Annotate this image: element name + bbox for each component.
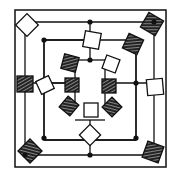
node-left-mid-hatched-square bbox=[17, 76, 33, 92]
node-ring-top-right-hatch-hatched-square bbox=[122, 33, 143, 54]
node-top-mid-white-square bbox=[83, 31, 102, 50]
node-bottom-right-corner-hatched-square bbox=[142, 141, 164, 163]
node-top-right-corner-hatched-square bbox=[140, 12, 163, 35]
concentric-node-diagram bbox=[0, 0, 179, 178]
diagram-nodes bbox=[16, 12, 164, 163]
junction-dot bbox=[133, 135, 138, 140]
node-right-mid-white-square bbox=[146, 78, 163, 95]
junction-dot bbox=[87, 19, 92, 24]
node-bottom-mid-white-square bbox=[79, 124, 100, 145]
node-bottom-left-corner-hatched-square bbox=[18, 139, 42, 163]
node-inner-bottom-left-hatched-square bbox=[59, 96, 79, 116]
junction-dot bbox=[87, 152, 92, 157]
junction-dot bbox=[41, 135, 46, 140]
node-top-left-corner-white-square bbox=[16, 14, 39, 37]
node-inner-bottom-center-white-square bbox=[84, 103, 98, 117]
node-inner-right-hatched-square bbox=[102, 79, 116, 93]
junction-dot bbox=[133, 80, 138, 85]
node-inner-top-left-hatched-square bbox=[61, 54, 79, 72]
junction-dot bbox=[41, 37, 46, 42]
node-inner-left-hatched-square bbox=[65, 78, 79, 92]
junction-dot bbox=[22, 152, 27, 157]
junction-dot bbox=[151, 19, 156, 24]
junction-dot bbox=[87, 57, 92, 62]
node-ring-left-white-white-square bbox=[36, 76, 55, 95]
